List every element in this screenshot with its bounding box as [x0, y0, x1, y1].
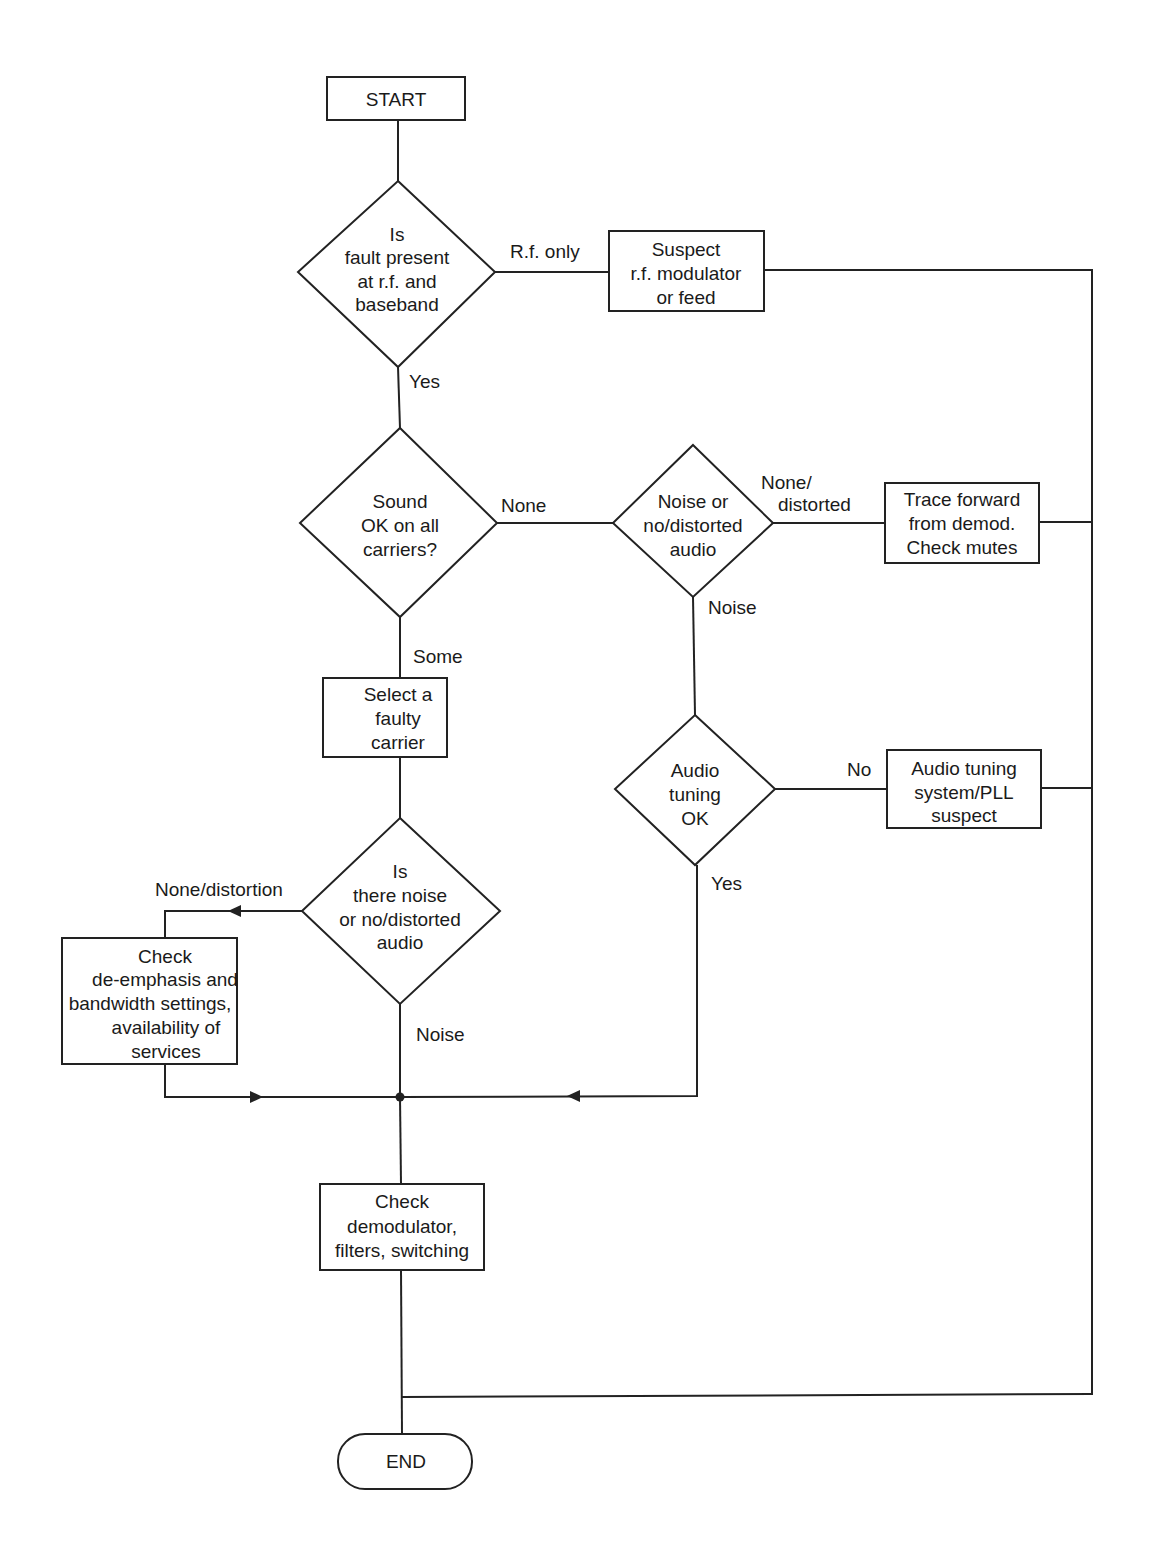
edge-label-rf-only: R.f. only: [510, 241, 580, 262]
decision-isnoise-label-line-3: or no/distorted: [339, 909, 460, 930]
edge-label-noise: Noise: [708, 597, 757, 618]
decision-isnoise-label-line-1: Is: [393, 861, 408, 882]
trace-forward-label-line-1: Trace forward: [904, 489, 1021, 510]
decision-noise-label-line-1: Noise or: [658, 491, 729, 512]
edge-label-yes: Yes: [409, 371, 440, 392]
edge-deemphasis-junction: [165, 1064, 400, 1097]
audio-tuning-suspect-label-line-2: system/PLL: [914, 782, 1013, 803]
decision-fault-label-line-2: fault present: [345, 247, 450, 268]
edge-noise-tuning: [693, 597, 695, 715]
check-deemphasis-label-line-1: Check: [138, 946, 192, 967]
node-end[interactable]: END: [338, 1434, 472, 1489]
decision-tuning-label-line-3: OK: [681, 808, 709, 829]
node-audio-tuning-suspect[interactable]: Audio tuning system/PLL suspect: [887, 750, 1041, 828]
check-demod-label-line-1: Check: [375, 1191, 429, 1212]
decision-isnoise-label-line-2: there noise: [353, 885, 447, 906]
decision-audio-tuning-ok[interactable]: Audio tuning OK: [615, 715, 775, 865]
decision-tuning-label-line-1: Audio: [671, 760, 720, 781]
decision-is-there-noise[interactable]: Is there noise or no/distorted audio: [302, 818, 500, 1004]
decision-sound-label-line-1: Sound: [373, 491, 428, 512]
check-deemphasis-label-line-4: availability of: [112, 1017, 221, 1038]
edge-label-none-distorted-line-2: distorted: [778, 494, 851, 515]
arrow-left-icon: [228, 905, 241, 917]
edge-bus-end: [402, 1394, 1092, 1397]
decision-fault-label-line-3: at r.f. and: [357, 271, 436, 292]
decision-fault-label-line-4: baseband: [355, 294, 438, 315]
trace-forward-label-line-2: from demod.: [909, 513, 1016, 534]
arrow-right-icon: [250, 1091, 263, 1103]
audio-tuning-suspect-label-line-1: Audio tuning: [911, 758, 1017, 779]
edge-label-noise-2: Noise: [416, 1024, 465, 1045]
decision-sound-label-line-3: carriers?: [363, 539, 437, 560]
edge-label-none-distortion: None/distortion: [155, 879, 283, 900]
edge-label-none-distorted-line-1: None/: [761, 472, 812, 493]
check-deemphasis-label-line-3: bandwidth settings,: [69, 993, 232, 1014]
decision-sound-ok[interactable]: Sound OK on all carriers?: [300, 428, 497, 617]
edge-fault-sound: [398, 367, 400, 428]
suspect-rf-label-line-1: Suspect: [652, 239, 721, 260]
suspect-rf-label-line-2: r.f. modulator: [631, 263, 743, 284]
arrow-left-icon: [567, 1090, 580, 1102]
trace-forward-label-line-3: Check mutes: [907, 537, 1018, 558]
edge-label-none: None: [501, 495, 546, 516]
edge-isnoise-deemphasis: [165, 911, 302, 938]
junction-dot-icon: [396, 1093, 405, 1102]
select-carrier-label-line-2: faulty: [375, 708, 421, 729]
select-carrier-label-line-1: Select a: [364, 684, 433, 705]
decision-tuning-label-line-2: tuning: [669, 784, 721, 805]
node-suspect-rf-modulator[interactable]: Suspect r.f. modulator or feed: [609, 231, 764, 311]
edge-label-yes-2: Yes: [711, 873, 742, 894]
decision-noise-or-none[interactable]: Noise or no/distorted audio: [613, 445, 773, 597]
select-carrier-label-line-3: carrier: [371, 732, 426, 753]
decision-noise-label-line-2: no/distorted: [643, 515, 742, 536]
edge-demod-end: [401, 1270, 402, 1434]
node-check-demodulator[interactable]: Check demodulator, filters, switching: [320, 1184, 484, 1270]
node-end-label: END: [386, 1451, 426, 1472]
check-demod-label-line-3: filters, switching: [335, 1240, 469, 1261]
decision-isnoise-label-line-4: audio: [377, 932, 424, 953]
edge-label-no: No: [847, 759, 871, 780]
suspect-rf-label-line-3: or feed: [656, 287, 715, 308]
check-demod-label-line-2: demodulator,: [347, 1216, 457, 1237]
node-start[interactable]: START: [327, 77, 465, 120]
edge-right-return-bus: [764, 270, 1092, 1395]
node-check-deemphasis[interactable]: Check de-emphasis and bandwidth settings…: [62, 938, 238, 1064]
flowchart: START Is fault present at r.f. and baseb…: [0, 0, 1154, 1558]
audio-tuning-suspect-label-line-3: suspect: [931, 805, 997, 826]
edge-label-some: Some: [413, 646, 463, 667]
decision-fault-present[interactable]: Is fault present at r.f. and baseband: [298, 181, 495, 367]
decision-sound-label-line-2: OK on all: [361, 515, 439, 536]
check-deemphasis-label-line-5: services: [131, 1041, 201, 1062]
check-deemphasis-label-line-2: de-emphasis and: [92, 969, 238, 990]
decision-fault-label-line-1: Is: [390, 224, 405, 245]
node-select-faulty-carrier[interactable]: Select a faulty carrier: [323, 678, 447, 757]
node-trace-forward[interactable]: Trace forward from demod. Check mutes: [885, 483, 1039, 563]
node-start-label: START: [366, 89, 427, 110]
edge-junction-demod: [400, 1097, 401, 1184]
decision-noise-label-line-3: audio: [670, 539, 717, 560]
